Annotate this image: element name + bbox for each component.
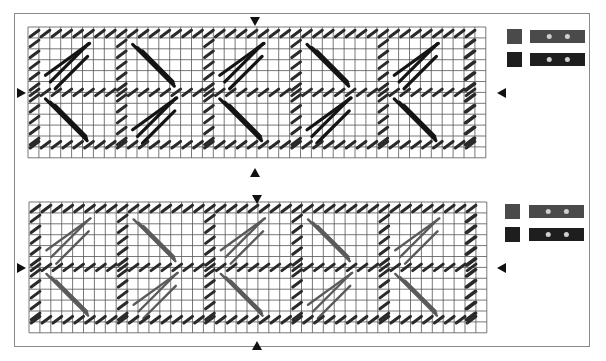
bead-dot-icon [547, 34, 552, 39]
center-arrow-top-icon [250, 17, 260, 26]
thread-swatch [505, 204, 520, 219]
center-arrow-right-icon [497, 88, 506, 98]
center-markers [17, 17, 506, 177]
center-arrow-left-icon [17, 263, 26, 273]
center-arrow-right-icon [497, 263, 506, 273]
stitch-sample-strip [529, 228, 584, 241]
bead-dot-icon [546, 232, 551, 237]
color-legend [507, 29, 585, 67]
stitch-sample-strip [529, 205, 584, 218]
thread-swatch [507, 29, 522, 44]
center-arrow-bottom-icon [252, 341, 262, 350]
bead-dot-icon [565, 34, 570, 39]
stitch-sample-strip [530, 30, 585, 43]
bead-dot-icon [546, 209, 551, 214]
thread-swatch [505, 227, 520, 242]
stitch-diagram-canvas [0, 0, 606, 361]
bead-dot-icon [564, 209, 569, 214]
bead-dot-icon [565, 57, 570, 62]
center-arrow-left-icon [17, 88, 26, 98]
chart-bottom [17, 195, 584, 350]
bead-dot-icon [564, 232, 569, 237]
chart-top [17, 17, 585, 177]
stitch-sample-strip [530, 53, 585, 66]
center-arrow-bottom-icon [250, 168, 260, 177]
color-legend [505, 204, 584, 242]
bead-dot-icon [547, 57, 552, 62]
thread-swatch [507, 52, 522, 67]
center-arrow-top-icon [252, 195, 262, 204]
